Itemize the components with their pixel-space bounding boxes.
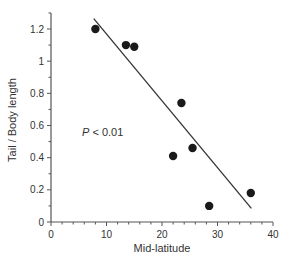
regression-line bbox=[94, 19, 252, 209]
p-value-text: < 0.01 bbox=[89, 126, 123, 138]
x-tick-label: 0 bbox=[48, 229, 54, 240]
y-tick-label: 1 bbox=[38, 56, 44, 67]
y-tick-label: 0.2 bbox=[30, 184, 44, 195]
data-point bbox=[188, 144, 196, 152]
p-value-annotation: P < 0.01 bbox=[82, 126, 123, 138]
x-tick-label: 10 bbox=[101, 229, 113, 240]
data-point bbox=[122, 41, 130, 49]
data-point bbox=[247, 189, 255, 197]
data-point bbox=[91, 25, 99, 33]
y-tick-label: 0 bbox=[38, 217, 44, 228]
data-point bbox=[205, 202, 213, 210]
y-axis-label: Tail / Body length bbox=[6, 78, 18, 162]
x-axis-label: Mid-latitude bbox=[134, 242, 191, 254]
data-point bbox=[177, 99, 185, 107]
x-tick-label: 30 bbox=[212, 229, 224, 240]
data-point bbox=[130, 42, 138, 50]
fit-line bbox=[94, 19, 252, 209]
y-tick-label: 0.6 bbox=[30, 120, 44, 131]
y-tick-label: 1.2 bbox=[30, 24, 44, 35]
axes: 01020304000.20.40.60.811.2 bbox=[30, 13, 279, 240]
scatter-chart: 01020304000.20.40.60.811.2 Mid-latitude … bbox=[0, 0, 290, 264]
y-tick-label: 0.4 bbox=[30, 152, 44, 163]
data-point bbox=[169, 152, 177, 160]
x-tick-label: 20 bbox=[156, 229, 168, 240]
x-tick-label: 40 bbox=[267, 229, 279, 240]
y-tick-label: 0.8 bbox=[30, 88, 44, 99]
